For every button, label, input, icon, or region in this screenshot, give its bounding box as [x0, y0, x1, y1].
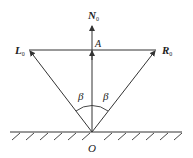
vector-diagram — [0, 0, 193, 158]
ground-hatching — [12, 133, 182, 140]
label-L0: L0 — [15, 45, 25, 57]
label-R0: R0 — [162, 45, 172, 57]
vector-R0 — [92, 51, 155, 132]
label-A: A — [95, 39, 101, 49]
label-beta-right: β — [103, 91, 108, 102]
label-O: O — [88, 143, 96, 154]
label-N0: N0 — [88, 10, 99, 22]
label-beta-left: β — [78, 91, 83, 102]
